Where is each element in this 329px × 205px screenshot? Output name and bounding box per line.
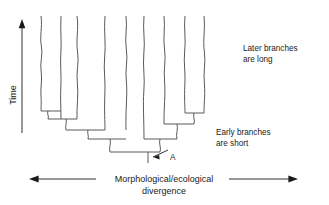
internal-node-n6	[164, 124, 194, 139]
tip-branch-7	[164, 16, 165, 124]
later-branches-line2: are long	[243, 55, 298, 66]
tip-branch-1	[41, 16, 42, 111]
x-axis-label-line1: Morphological/ecological	[64, 174, 264, 186]
x-axis-label: Morphological/ecological divergence	[64, 174, 264, 197]
later-branches-annotation: Later branches are long	[243, 44, 298, 65]
tip-branch-8	[184, 16, 185, 113]
early-branches-annotation: Early branches are short	[216, 128, 271, 149]
internal-node-n2	[48, 119, 77, 130]
internal-node-n3	[66, 130, 105, 139]
internal-node-n5	[185, 113, 204, 124]
node-a-label: A	[170, 153, 175, 164]
early-branches-line2: are short	[216, 139, 271, 150]
time-axis-arrow	[19, 19, 26, 133]
later-branches-line1: Later branches	[243, 44, 298, 55]
tip-branch-3	[77, 16, 78, 119]
early-branches-line1: Early branches	[216, 128, 271, 139]
x-axis-label-line2: divergence	[64, 186, 264, 198]
tip-branch-2	[61, 16, 62, 119]
internal-node-n1	[41, 111, 61, 119]
root-node	[110, 152, 160, 163]
y-axis-label: Time	[8, 75, 18, 115]
internal-node-n7	[144, 139, 177, 152]
tip-branch-4	[104, 16, 105, 130]
internal-node-n4	[88, 139, 126, 152]
tip-branch-6	[143, 16, 144, 139]
phylogenetic-tree-figure: Later branches are long Early branches a…	[0, 0, 329, 205]
tip-branch-5	[126, 16, 127, 130]
tip-branch-9	[204, 16, 205, 113]
